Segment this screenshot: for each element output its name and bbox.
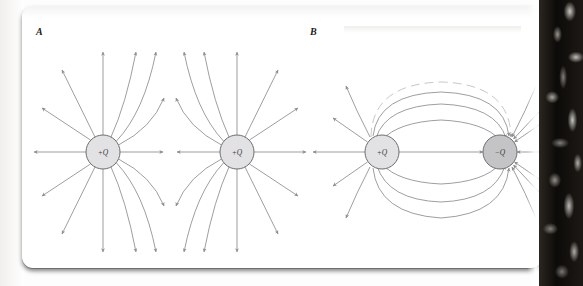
scan-band-top [22, 6, 542, 18]
figure-root: A B [0, 0, 583, 286]
panel-label-a: A [36, 26, 43, 37]
scan-band-secondary [344, 26, 521, 33]
scan-right-edge [539, 0, 583, 286]
scan-left-margin [0, 0, 24, 286]
page-card [22, 6, 542, 268]
panel-label-b: B [310, 26, 317, 37]
